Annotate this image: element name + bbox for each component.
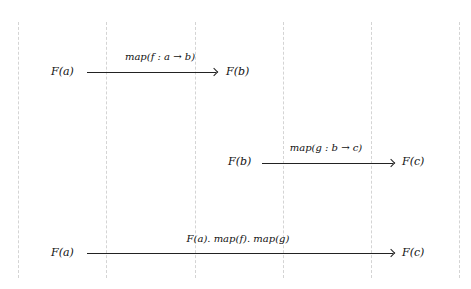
node-target-fb: F(b) [226, 65, 249, 79]
gridline [459, 22, 460, 278]
arrow-label-composed: F(a). map(f). map(g) [168, 233, 308, 245]
node-source-fa-composed: F(a) [51, 246, 74, 260]
functor-map-diagram: F(a) map(f : a → b) F(b) F(b) map(g : b … [0, 0, 471, 289]
arrow-label-map-g: map(g : b → c) [266, 142, 386, 154]
arrow-icon [262, 163, 393, 164]
arrow-icon [87, 253, 393, 254]
node-source-fa: F(a) [51, 65, 74, 79]
arrow-label-map-f: map(f : a → b) [100, 51, 220, 63]
node-target-fc-composed: F(c) [402, 246, 424, 260]
gridline [18, 22, 19, 278]
node-source-fb: F(b) [228, 155, 251, 169]
node-target-fc: F(c) [402, 155, 424, 169]
arrow-icon [87, 72, 216, 73]
